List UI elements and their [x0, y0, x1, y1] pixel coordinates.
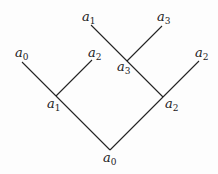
node-label-root: a0: [103, 151, 117, 167]
node-label-left-junction: a1: [47, 97, 61, 113]
edge-root-left: [56, 96, 110, 150]
edge-cross-top-a3: [127, 26, 162, 61]
leaf-label-left-a2: a2: [88, 46, 102, 62]
edge-right-leaf-a2: [163, 61, 199, 97]
leaf-label-right-a2: a2: [195, 46, 209, 62]
edge-left-leaf-a0: [22, 62, 56, 96]
node-label-cross-junction: a3: [117, 60, 131, 76]
node-label-right-junction: a2: [165, 97, 179, 113]
tree-diagram: a0 a1 a2 a3 a0 a2 a1 a3 a2: [0, 0, 218, 174]
leaf-label-left-a0: a0: [15, 46, 29, 62]
leaf-label-top-a1: a1: [82, 10, 96, 26]
leaf-label-top-a3: a3: [157, 10, 171, 26]
tree-edges: [0, 0, 218, 174]
edge-left-leaf-a2: [56, 60, 92, 96]
edge-root-right: [110, 97, 163, 150]
